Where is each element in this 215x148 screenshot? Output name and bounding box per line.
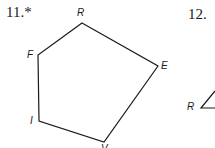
vertex-label-v: V xyxy=(101,144,108,148)
triangle-vertex-label-r: R xyxy=(187,102,194,112)
vertex-label-i: I xyxy=(30,116,33,126)
triangle-partial xyxy=(201,91,215,108)
vertex-label-e: E xyxy=(161,61,168,71)
vertex-label-f: F xyxy=(27,50,33,60)
pentagon-rfive xyxy=(38,23,158,142)
vertex-label-r: R xyxy=(77,8,84,18)
